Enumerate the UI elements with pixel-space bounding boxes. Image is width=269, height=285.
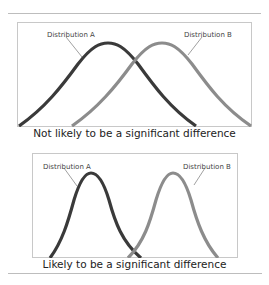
label-distribution-b: Distribution B [183,163,231,171]
label-distribution-a: Distribution A [43,163,91,171]
label-distribution-a: Distribution A [47,31,95,39]
distribution-a-curve [19,43,196,126]
leader-line-a [66,37,82,57]
top-separator [8,13,261,14]
distribution-b-curve [72,43,251,126]
caption-not-significant: Not likely to be a significant differenc… [0,127,269,139]
panel-separated-distributions: Distribution A Distribution B [32,153,238,258]
label-distribution-b: Distribution B [184,31,232,39]
bottom-separator [8,273,262,274]
caption-significant: Likely to be a significant difference [0,258,269,270]
distribution-a-curve [50,173,141,258]
panel-overlapping-distributions: Distribution A Distribution B [17,22,252,127]
leader-line-b [188,37,202,55]
distribution-b-curve [128,173,218,258]
